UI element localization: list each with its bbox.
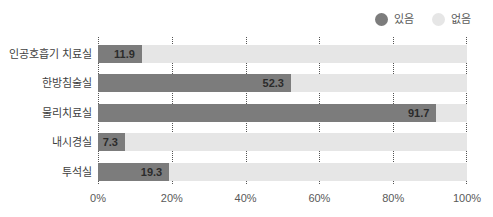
category-label: 내시경실 [0, 133, 92, 151]
x-tick-label: 80% [382, 192, 404, 204]
bar-segment-no [291, 74, 467, 92]
bar-segment-no [169, 163, 467, 181]
x-tick-label: 0% [90, 192, 106, 204]
x-tick-label: 20% [161, 192, 183, 204]
legend-item-yes: 있음 [375, 13, 414, 26]
bar-row: 19.3 [98, 163, 467, 181]
bar-segment-yes: 11.9 [98, 45, 142, 63]
bar-segment-no [436, 104, 467, 122]
category-label: 인공호흡기 치료실 [0, 45, 92, 63]
legend-label: 없음 [451, 13, 471, 26]
x-tick-label: 40% [235, 192, 257, 204]
category-label: 한방침술실 [0, 74, 92, 92]
x-axis: 0%20%40%60%80%100% [98, 186, 467, 212]
category-label: 투석실 [0, 163, 92, 181]
bar-value-label: 91.7 [408, 107, 429, 118]
bar-segment-yes: 52.3 [98, 74, 291, 92]
x-tick-label: 100% [453, 192, 481, 204]
circle-icon [432, 13, 445, 26]
chart-legend: 있음 없음 [375, 10, 471, 28]
bar-value-label: 11.9 [114, 49, 135, 60]
bar-segment-yes: 91.7 [98, 104, 436, 122]
legend-label: 있음 [394, 13, 414, 26]
plot-area: 11.952.391.77.319.3 [98, 37, 467, 184]
legend-item-no: 없음 [432, 13, 471, 26]
bar-row: 52.3 [98, 74, 467, 92]
category-label: 물리치료실 [0, 104, 92, 122]
bar-value-label: 52.3 [263, 78, 284, 89]
bar-row: 91.7 [98, 104, 467, 122]
bar-row: 7.3 [98, 133, 467, 151]
bar-segment-yes: 19.3 [98, 163, 169, 181]
bar-segment-no [125, 133, 467, 151]
circle-icon [375, 13, 388, 26]
bar-rows: 11.952.391.77.319.3 [98, 37, 467, 184]
x-tick-label: 60% [308, 192, 330, 204]
bar-row: 11.9 [98, 45, 467, 63]
bar-value-label: 19.3 [141, 166, 162, 177]
bar-segment-yes: 7.3 [98, 133, 125, 151]
bar-value-label: 7.3 [103, 137, 118, 148]
bar-segment-no [142, 45, 467, 63]
